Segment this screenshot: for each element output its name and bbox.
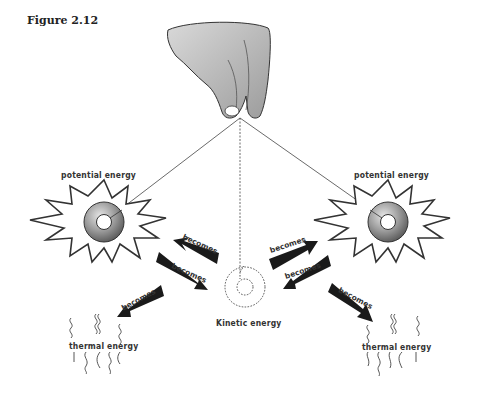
potential-energy-right-label: potential energy (354, 170, 429, 180)
thermal-energy-left-label: thermal energy (69, 341, 138, 351)
pendulum-strings (104, 118, 388, 272)
hand-icon (167, 22, 270, 118)
kinetic-bob-icon (225, 266, 265, 307)
arrows (117, 237, 373, 322)
thermal-energy-right-label: thermal energy (362, 342, 431, 352)
potential-energy-left-label: potential energy (61, 170, 136, 180)
starburst-left-icon (30, 180, 166, 262)
kinetic-energy-label: Kinetic energy (216, 318, 282, 328)
starburst-right-icon (314, 180, 450, 262)
